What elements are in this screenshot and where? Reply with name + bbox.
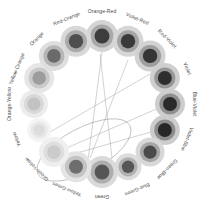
color-node[interactable]: [150, 63, 180, 93]
color-wheel-canvas: Orange-RedViolet-RedRed-VioletVioletBlue…: [0, 0, 204, 208]
sector-label: Blue-Violet: [192, 91, 198, 117]
color-node[interactable]: [39, 137, 69, 167]
connector-line: [50, 74, 150, 132]
sector-label: Violet-Blue: [180, 127, 195, 153]
color-node-core: [69, 160, 83, 174]
connector-line: [90, 60, 128, 158]
color-node[interactable]: [60, 26, 91, 57]
color-node-core: [143, 49, 157, 63]
color-node-core: [69, 34, 83, 48]
color-node-core: [95, 29, 110, 44]
sector-label: Yellow: [11, 131, 22, 147]
sector-label: Yellow-Orange: [7, 52, 26, 86]
sector-label: Red-Orange: [52, 10, 81, 27]
color-node-core: [28, 98, 41, 111]
color-node-core: [95, 165, 110, 180]
sector-label: Green: [95, 194, 110, 200]
color-node[interactable]: [86, 20, 118, 52]
sector-label: Orange-Yellow: [6, 87, 12, 121]
color-node[interactable]: [115, 153, 142, 180]
color-node-core: [47, 49, 61, 63]
color-node-core: [47, 145, 61, 159]
color-node-core: [158, 71, 172, 85]
sector-label: Orange: [28, 30, 45, 47]
sector-label: Orange-Red: [88, 8, 117, 14]
color-node-group: [20, 20, 185, 188]
color-node[interactable]: [86, 156, 118, 188]
sector-label: Violet-Red: [125, 11, 150, 26]
color-node-core: [32, 71, 46, 85]
sector-label: Yellow-Green: [51, 181, 82, 198]
color-wheel-diagram: Orange-RedViolet-RedRed-VioletVioletBlue…: [0, 0, 204, 208]
color-node-core: [163, 97, 177, 111]
sector-label: Violet: [182, 61, 193, 76]
color-node-core: [158, 123, 172, 137]
sector-label: Blue-Green: [124, 182, 151, 198]
color-node[interactable]: [155, 89, 185, 119]
color-node-core: [121, 34, 135, 48]
color-node[interactable]: [27, 118, 51, 142]
color-node[interactable]: [20, 90, 48, 118]
color-node-core: [34, 124, 45, 135]
color-node-core: [122, 161, 134, 173]
color-node-core: [143, 145, 156, 158]
